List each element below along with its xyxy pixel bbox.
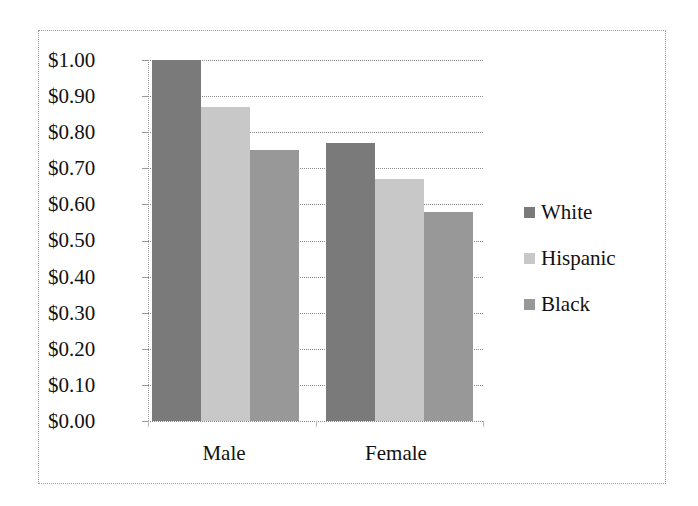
y-tick-label: $1.00 — [48, 49, 140, 71]
bar-female-black — [424, 212, 473, 421]
x-label-male: Male — [164, 441, 284, 466]
y-tick-label: $0.90 — [48, 85, 140, 107]
legend-label: Black — [541, 291, 590, 317]
bar-male-black — [250, 150, 299, 421]
bar-male-hispanic — [201, 107, 250, 421]
y-tick-label: $0.00 — [48, 410, 140, 432]
bar-female-hispanic — [375, 179, 424, 421]
y-tick — [142, 60, 148, 61]
legend-item-hispanic: Hispanic — [524, 245, 616, 291]
y-tick — [142, 313, 148, 314]
y-tick — [142, 96, 148, 97]
x-label-female: Female — [336, 441, 456, 466]
y-tick — [142, 132, 148, 133]
legend-item-white: White — [524, 199, 616, 245]
x-tick — [148, 421, 149, 427]
legend-label: White — [541, 199, 592, 225]
bar-female-white — [326, 143, 375, 421]
y-tick — [142, 241, 148, 242]
y-tick — [142, 204, 148, 205]
y-tick — [142, 349, 148, 350]
y-tick-label: $0.40 — [48, 266, 140, 288]
y-tick-label: $0.70 — [48, 157, 140, 179]
y-tick-label: $0.10 — [48, 374, 140, 396]
y-tick-label: $0.80 — [48, 121, 140, 143]
y-tick-label: $0.50 — [48, 229, 140, 251]
plot-area — [148, 60, 483, 421]
legend-label: Hispanic — [541, 245, 616, 271]
y-tick — [142, 277, 148, 278]
legend-swatch-white — [524, 207, 535, 218]
legend-swatch-black — [524, 299, 535, 310]
bar-male-white — [152, 60, 201, 421]
y-tick — [142, 385, 148, 386]
x-tick — [316, 421, 317, 427]
y-tick — [142, 168, 148, 169]
y-tick-label: $0.20 — [48, 338, 140, 360]
legend: White Hispanic Black — [524, 199, 616, 337]
legend-swatch-hispanic — [524, 253, 535, 264]
y-tick-label: $0.60 — [48, 193, 140, 215]
legend-item-black: Black — [524, 291, 616, 337]
x-tick — [483, 421, 484, 427]
y-tick-label: $0.30 — [48, 302, 140, 324]
